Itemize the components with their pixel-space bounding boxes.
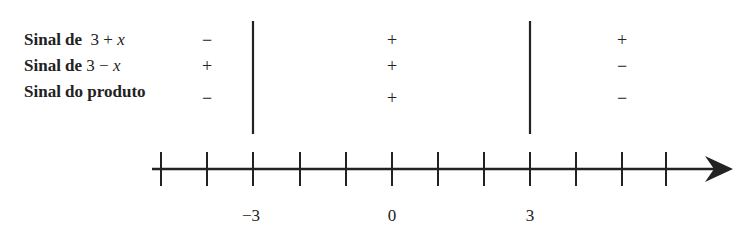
expression-variable: x: [117, 30, 125, 49]
sign-3-minus-x-right: −: [612, 56, 632, 76]
sign-3-plus-x-left: −: [197, 30, 217, 50]
row-label-3-plus-x: Sinal de 3 + x: [24, 30, 125, 50]
expression-constant: 3 +: [91, 30, 118, 49]
tick-label-3: 3: [515, 206, 545, 226]
label-prefix: Sinal de: [24, 56, 82, 75]
sign-product-left: −: [197, 88, 217, 108]
sign-3-minus-x-left: +: [197, 56, 217, 76]
row-label-3-minus-x: Sinal de 3 − x: [24, 56, 121, 76]
tick-label-0: 0: [377, 206, 407, 226]
sign-3-minus-x-middle: +: [382, 56, 402, 76]
tick-label-minus-3: −3: [236, 206, 266, 226]
expression-constant: 3 −: [86, 56, 113, 75]
sign-3-plus-x-middle: +: [382, 30, 402, 50]
sign-product-right: −: [612, 88, 632, 108]
sign-3-plus-x-right: +: [612, 30, 632, 50]
label-prefix: Sinal de: [24, 30, 82, 49]
expression-variable: x: [113, 56, 121, 75]
sign-product-middle: +: [382, 88, 402, 108]
label-prefix: Sinal do produto: [24, 82, 146, 101]
row-label-product: Sinal do produto: [24, 82, 146, 102]
